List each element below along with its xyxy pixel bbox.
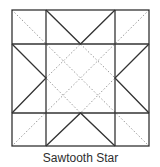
center-diamond [46,44,115,113]
star-point-bottom [46,113,115,146]
diagram-caption: Sawtooth Star [0,151,160,165]
dotted-construction-lines [12,10,149,146]
star-point-right [115,44,149,113]
sawtooth-star-block [0,0,160,150]
star-point-left [12,44,46,113]
star-point-top [46,10,115,44]
